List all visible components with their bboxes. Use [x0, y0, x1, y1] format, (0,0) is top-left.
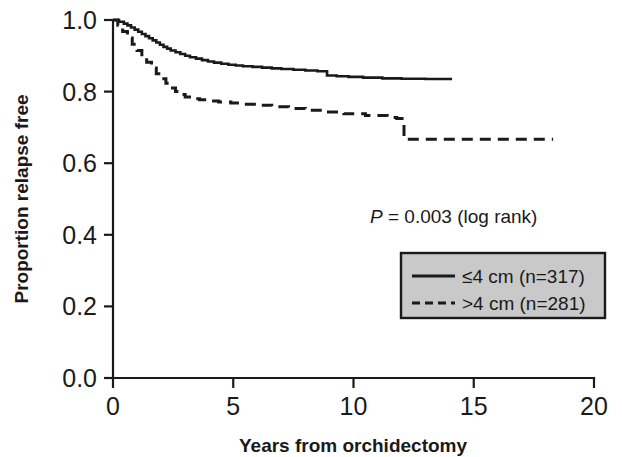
x-axis-title: Years from orchidectomy [239, 435, 468, 456]
kaplan-meier-figure: 0.00.20.40.60.81.0 05101520 Proportion r… [0, 0, 622, 457]
y-tick-label: 0.0 [62, 364, 97, 392]
x-tick-group: 05101520 [106, 378, 608, 420]
curves-group [113, 20, 553, 139]
legend: ≤4 cm (n=317) >4 cm (n=281) [401, 253, 605, 318]
y-tick-label: 0.8 [62, 78, 97, 106]
x-tick-label: 5 [226, 392, 240, 420]
survival-curve-small-tumor [113, 20, 452, 79]
p-value-symbol: P [370, 206, 383, 227]
y-tick-label: 0.2 [62, 292, 97, 320]
x-tick-label: 0 [106, 392, 120, 420]
legend-label-small-tumor: ≤4 cm (n=317) [462, 266, 585, 287]
y-tick-group: 0.00.20.40.60.81.0 [62, 6, 113, 392]
p-value-annotation: P = 0.003 (log rank) [370, 206, 537, 227]
survival-curve-large-tumor [113, 20, 553, 139]
y-tick-label: 0.4 [62, 221, 97, 249]
y-axis-group: 0.00.20.40.60.81.0 [62, 6, 113, 392]
x-axis-group: 05101520 [106, 378, 608, 420]
x-tick-label: 15 [460, 392, 488, 420]
y-tick-label: 0.6 [62, 149, 97, 177]
legend-label-large-tumor: >4 cm (n=281) [462, 293, 586, 314]
survival-plot-svg: 0.00.20.40.60.81.0 05101520 Proportion r… [0, 0, 622, 457]
y-axis-title: Proportion relapse free [11, 94, 32, 303]
x-tick-label: 20 [580, 392, 608, 420]
x-tick-label: 10 [340, 392, 368, 420]
p-value-body: = 0.003 (log rank) [383, 206, 538, 227]
y-tick-label: 1.0 [62, 6, 97, 34]
